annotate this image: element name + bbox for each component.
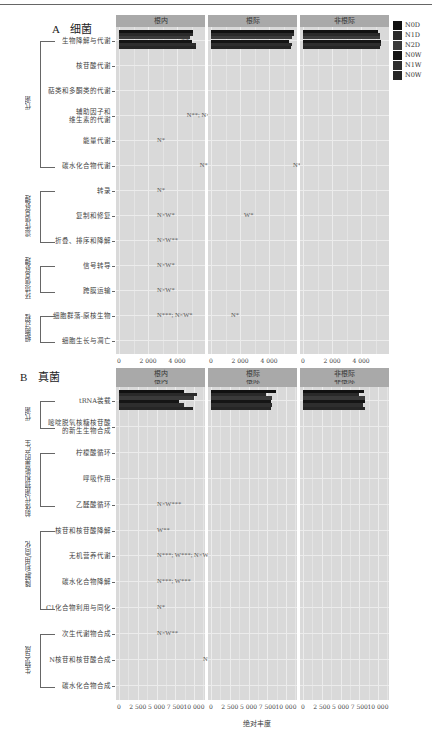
category-label: 生物降解与代谢 [62,37,111,45]
x-axis-label: 绝对丰度 [243,718,271,728]
significance-annotation: N***; W*** [157,577,191,584]
significance-annotation: N* [157,186,165,193]
y-tick-mark [112,660,115,661]
legend-label: N1W [405,61,422,69]
group-bracket [40,191,55,243]
category-label-wrap: 萜类和多酮类的代谢 [11,87,111,95]
facet-panel [300,27,389,354]
significance-annotation: N* [231,311,239,318]
legend-swatch [393,21,402,30]
facet-strip-bottom-2: 根际 [208,368,297,380]
category-label: 能量代谢 [83,137,111,145]
category-label: 细胞生长与凋亡 [62,337,111,345]
major-gridline [148,27,149,354]
minor-gridline [147,387,148,700]
y-tick-mark [112,216,115,217]
legend-item: N1W [393,60,422,70]
minor-gridline [284,27,285,354]
major-gridline [341,387,342,700]
row-gridline [116,90,205,91]
minor-gridline [166,387,167,700]
category-label: C1化合物利用与同化 [46,604,111,612]
category-label: 碳水化合物降解 [62,578,111,586]
facet-strip-3: 非根际 [300,15,389,27]
legend-swatch [393,61,402,70]
significance-annotation: N* [200,161,208,168]
minor-gridline [185,387,186,700]
major-gridline [359,387,360,700]
major-gridline [211,27,212,354]
row-gridline [208,426,297,427]
minor-gridline [318,27,319,354]
category-label-wrap: C1化合物利用与同化 [11,604,111,612]
facet-panel: N×W***W**N***; W***; N×W***N***; W***N*N… [116,387,205,700]
y-tick-mark [112,608,115,609]
facet-strip-1: 根内 [116,15,205,27]
row-gridline [208,290,297,291]
group-bracket [40,453,55,507]
row-gridline [208,65,297,66]
facet-panel: N*N**; N×W**N*N*N*N×W*N×W**N×W*N×W*N***;… [116,27,205,354]
y-tick-mark [112,401,115,402]
row-gridline [208,633,297,634]
bar-n0w [119,46,128,49]
row-gridline [208,115,297,116]
row-gridline [208,478,297,479]
legend: N0D N1D N2D N0W N1W N0W [393,20,422,80]
category-label-wrap: 辅助因子和 维生素的代谢 [11,112,111,120]
x-tick-label: 10 000 [368,703,389,710]
row-gridline [116,426,205,427]
category-label: 信号转导 [83,262,111,270]
x-tick-label: 4 000 [168,357,185,364]
row-gridline [208,165,297,166]
minor-gridline [347,27,348,354]
category-label: 转录 [97,187,111,195]
category-label-wrap: 碳水化合物代谢 [11,162,111,170]
legend-label: N0W [405,51,422,59]
x-tick-label: 2 000 [139,357,156,364]
category-label-wrap: 生物降解与代谢 [11,37,111,45]
row-gridline [300,265,389,266]
major-gridline [361,27,362,354]
row-gridline [116,685,205,686]
y-tick-mark [112,427,115,428]
group-bracket [40,41,55,168]
row-gridline [300,140,389,141]
group-label: 降解/利用/同化 [24,541,34,587]
row-gridline [300,478,389,479]
row-gridline [300,90,389,91]
x-tick-label: 10 000 [276,703,297,710]
row-gridline [116,659,205,660]
major-gridline [157,387,158,700]
major-gridline [269,27,270,354]
legend-item: N0W [393,70,422,80]
major-gridline [303,387,304,700]
minor-gridline [350,387,351,700]
category-label-wrap: 核苷和核苷酸降解 [11,527,111,535]
y-tick-mark [112,141,115,142]
legend-swatch [393,71,402,80]
minor-gridline [192,27,193,354]
significance-annotation: N* [157,136,165,143]
row-gridline [208,240,297,241]
category-label: 核苷和核苷酸降解 [55,527,111,535]
y-tick-mark [112,686,115,687]
x-tick-label: 0 [301,357,305,364]
group-label: 环境信息处理 [24,257,34,299]
significance-annotation: N×W** [157,236,178,243]
row-gridline [300,659,389,660]
y-tick-mark [112,266,115,267]
x-tick-label: 4 000 [352,357,369,364]
x-tick-label: 2 500 [313,703,330,710]
minor-gridline [387,387,388,700]
major-gridline [332,27,333,354]
row-gridline [208,581,297,582]
row-gridline [300,530,389,531]
row-gridline [116,478,205,479]
row-gridline [208,452,297,453]
major-gridline [378,387,379,700]
facet-strip-2: 根际 [208,15,297,27]
x-tick-label: 7 500 [167,703,184,710]
group-label: 细胞过程 [24,314,34,342]
y-tick-mark [112,556,115,557]
